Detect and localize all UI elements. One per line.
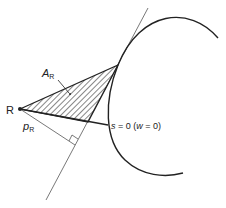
- area-label: AR: [41, 67, 54, 80]
- curve-s-zero: [108, 17, 218, 175]
- diagram-canvas: R AR pR s = 0 (w = 0): [0, 0, 226, 208]
- distance-label: pR: [22, 120, 34, 133]
- hatched-area: [20, 65, 118, 122]
- point-r: [18, 107, 22, 111]
- right-angle-marker: [69, 135, 78, 141]
- curve-label: s = 0 (w = 0): [111, 121, 161, 131]
- area-leader-dot: [69, 93, 71, 95]
- point-r-label: R: [6, 104, 14, 116]
